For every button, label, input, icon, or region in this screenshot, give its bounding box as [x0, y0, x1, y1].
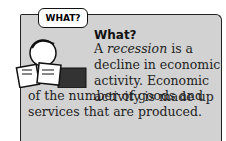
text-line: services that are produced.	[28, 104, 203, 120]
text-line: of the number of goods and	[28, 88, 203, 104]
definition-text-full: of the number of goods and services that…	[28, 88, 203, 120]
text-line: decline in economic	[94, 57, 220, 73]
text-line: activity. Economic	[94, 73, 220, 89]
sidebar-heading: What?	[94, 28, 137, 42]
text-line: A recession is a	[94, 41, 220, 57]
speech-bubble: WHAT?	[38, 8, 88, 28]
